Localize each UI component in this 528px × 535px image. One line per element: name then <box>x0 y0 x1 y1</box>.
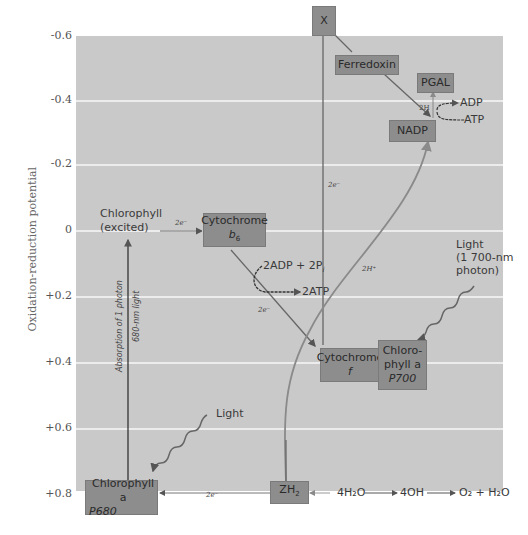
two-atp-label: 2ATP <box>302 285 329 299</box>
light-label-top-3: photon) <box>456 264 499 278</box>
electron-label: 2e⁻ <box>206 488 218 502</box>
ferredoxin-label: Ferredoxin <box>338 58 396 72</box>
p680-line1: Chlorophyll a <box>89 477 157 505</box>
absorption-label: Absorption of 1 photon <box>115 280 124 372</box>
cytochrome-b6-label: Cytochrome <box>201 214 268 228</box>
adp-label: ADP <box>460 96 483 110</box>
hydroxide-label: 4OH <box>400 486 424 500</box>
chlorophyll-excited-label-2: (excited) <box>100 221 149 235</box>
electron-label: 2e⁻ <box>328 178 340 192</box>
products-label: O₂ + H₂O <box>459 486 510 500</box>
light-label-top-2: (1 700-nm <box>456 251 513 265</box>
p700-line3: P700 <box>389 372 417 386</box>
node-ferredoxin: Ferredoxin <box>335 55 399 75</box>
cytochrome-f-letter: f <box>348 365 352 379</box>
node-chlorophyll-p700: Chloro- phyll a P700 <box>378 340 427 390</box>
wavelength-label: 680-nm light <box>132 291 141 342</box>
node-zh2: ZH2 <box>270 481 309 504</box>
cytochrome-f-label: Cytochrome <box>317 351 384 365</box>
water-label: 4H₂O <box>337 486 365 500</box>
p680-line2: P680 <box>89 505 117 519</box>
nadp-label: NADP <box>397 124 428 138</box>
node-x-label: X <box>320 14 328 28</box>
node-x: X <box>312 6 336 36</box>
hydrogen-ion-label: 2H⁺ <box>362 262 376 276</box>
light-label-bottom: Light <box>216 407 243 421</box>
node-cytochrome-f: Cytochrome f <box>320 348 380 382</box>
node-nadp: NADP <box>389 120 436 142</box>
zh2-label: ZH2 <box>279 483 299 501</box>
chlorophyll-excited-label: Chlorophyll <box>100 207 162 221</box>
two-h-label: 2H <box>419 101 430 115</box>
p700-line1: Chloro- <box>383 344 423 358</box>
electron-label: 2e⁻ <box>258 303 270 317</box>
node-chlorophyll-p680: Chlorophyll a P680 <box>85 480 158 515</box>
cytochrome-b6-subscript-label: b6 <box>229 228 240 246</box>
light-label-top: Light <box>456 238 483 252</box>
node-pgal: PGAL <box>417 73 454 93</box>
p700-line2: phyll a <box>384 358 421 372</box>
pgal-label: PGAL <box>421 76 450 90</box>
atp-label: ATP <box>464 113 484 127</box>
adp-phosphate-label: 2ADP + 2Pi <box>263 259 324 277</box>
electron-label: 2e⁻ <box>175 216 187 230</box>
node-cytochrome-b6: Cytochrome b6 <box>203 213 266 247</box>
